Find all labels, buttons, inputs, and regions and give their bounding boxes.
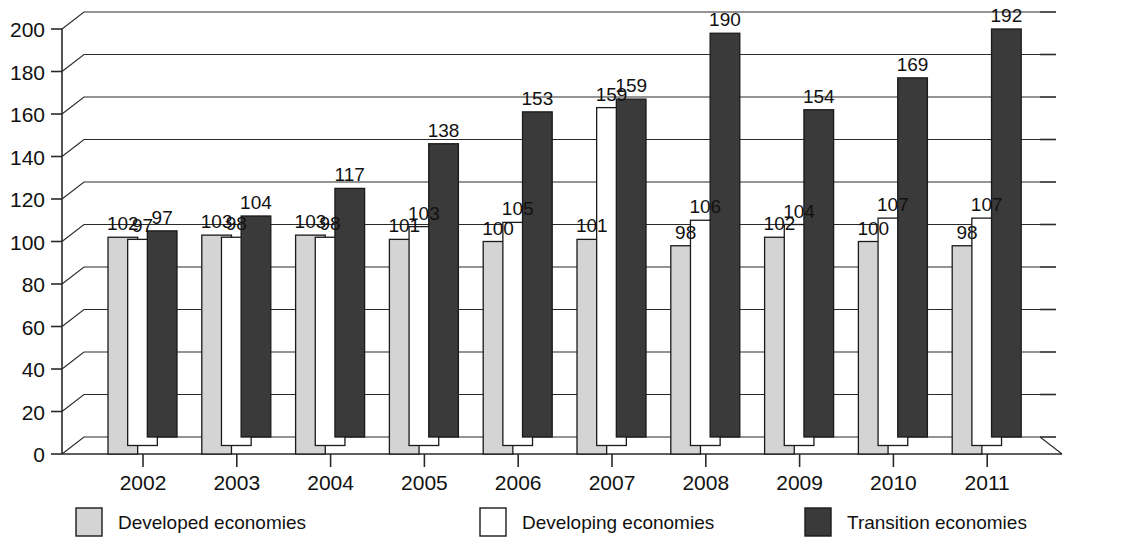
bar bbox=[616, 99, 646, 437]
bar-value-label: 153 bbox=[522, 88, 554, 109]
x-axis-category-label: 2002 bbox=[120, 471, 167, 494]
bar-value-label: 104 bbox=[240, 192, 272, 213]
y-axis-tick-label: 40 bbox=[22, 358, 45, 381]
bar-value-label: 98 bbox=[320, 213, 341, 234]
bar-value-label: 97 bbox=[132, 215, 153, 236]
bar bbox=[992, 29, 1022, 437]
x-axis-category-label: 2005 bbox=[401, 471, 448, 494]
bar-value-label: 101 bbox=[576, 215, 608, 236]
bar-value-label: 100 bbox=[857, 218, 889, 239]
y-axis-tick-label: 0 bbox=[33, 443, 45, 466]
y-axis-tick-label: 180 bbox=[10, 61, 45, 84]
x-axis-category-label: 2003 bbox=[213, 471, 260, 494]
bar-value-label: 169 bbox=[897, 54, 929, 75]
bar-value-label: 192 bbox=[991, 5, 1023, 26]
bar-value-label: 154 bbox=[803, 86, 835, 107]
y-axis-tick-label: 120 bbox=[10, 188, 45, 211]
bar-value-label: 190 bbox=[709, 9, 741, 30]
bar-value-label: 104 bbox=[783, 201, 815, 222]
x-axis-category-label: 2009 bbox=[776, 471, 823, 494]
bar-value-label: 107 bbox=[877, 194, 909, 215]
bar-value-label: 107 bbox=[971, 194, 1003, 215]
y-axis-tick-label: 160 bbox=[10, 103, 45, 126]
legend-label: Developing economies bbox=[522, 512, 714, 533]
bar bbox=[804, 110, 834, 437]
y-axis-tick-label: 140 bbox=[10, 146, 45, 169]
bar bbox=[147, 231, 177, 437]
bar-value-label: 105 bbox=[502, 198, 534, 219]
bar-value-label: 100 bbox=[482, 218, 514, 239]
x-axis-category-label: 2004 bbox=[307, 471, 354, 494]
bar bbox=[241, 216, 271, 437]
legend-swatch bbox=[76, 508, 102, 536]
x-axis-category-label: 2006 bbox=[495, 471, 542, 494]
bar bbox=[898, 78, 928, 437]
chart-canvas: 020406080100120140160180200 102979710398… bbox=[0, 0, 1123, 550]
bar bbox=[429, 144, 459, 437]
x-axis-category-label: 2011 bbox=[965, 471, 1010, 494]
bar-value-label: 98 bbox=[956, 222, 977, 243]
bar-chart: 020406080100120140160180200 102979710398… bbox=[0, 0, 1123, 550]
bar-value-label: 159 bbox=[615, 75, 647, 96]
bar-value-label: 117 bbox=[335, 164, 365, 185]
x-axis-category-label: 2007 bbox=[589, 471, 636, 494]
bar-value-label: 103 bbox=[408, 203, 440, 224]
legend-swatch bbox=[480, 508, 506, 536]
bar-value-label: 106 bbox=[689, 196, 721, 217]
legend-swatch bbox=[805, 508, 831, 536]
y-axis-tick-label: 20 bbox=[22, 401, 45, 424]
y-axis-tick-label: 60 bbox=[22, 316, 45, 339]
bar bbox=[523, 112, 553, 437]
bar bbox=[710, 33, 740, 437]
y-axis-tick-label: 100 bbox=[10, 231, 45, 254]
bar-value-label: 97 bbox=[152, 207, 173, 228]
legend-label: Transition economies bbox=[847, 512, 1027, 533]
y-axis-tick-label: 200 bbox=[10, 18, 45, 41]
y-axis-tick-label: 80 bbox=[22, 273, 45, 296]
legend-label: Developed economies bbox=[118, 512, 306, 533]
bar-value-label: 138 bbox=[428, 120, 460, 141]
bar-value-label: 98 bbox=[675, 222, 696, 243]
legend-group: Developed economiesDeveloping economiesT… bbox=[76, 508, 1027, 536]
x-axis-category-label: 2008 bbox=[682, 471, 729, 494]
bar-value-label: 98 bbox=[226, 213, 247, 234]
x-axis-category-label: 2010 bbox=[870, 471, 917, 494]
